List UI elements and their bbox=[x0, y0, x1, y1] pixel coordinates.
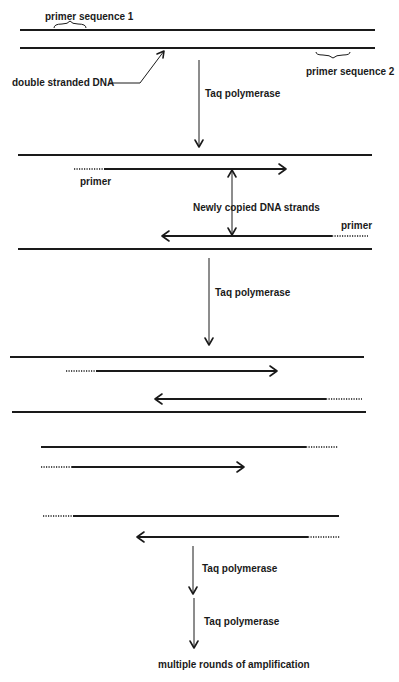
pointer-line bbox=[110, 51, 164, 83]
label-taq-4: Taq polymerase bbox=[204, 616, 280, 627]
label-taq-2: Taq polymerase bbox=[215, 287, 291, 298]
step-arrow-1: Taq polymerase bbox=[195, 60, 281, 147]
step-arrow-3: Taq polymerase bbox=[189, 546, 278, 594]
stage-third-round bbox=[41, 447, 340, 542]
brace-primer-1-icon bbox=[54, 21, 86, 28]
label-taq-3: Taq polymerase bbox=[202, 563, 278, 574]
step-arrow-4: Taq polymerase bbox=[190, 598, 280, 648]
pcr-diagram: primer sequence 1 primer sequence 2 doub… bbox=[0, 0, 399, 682]
label-primer-left: primer bbox=[80, 176, 111, 187]
label-primer-right: primer bbox=[341, 220, 372, 231]
label-double-stranded-dna: double stranded DNA bbox=[12, 77, 114, 88]
pointer-arrowhead-icon bbox=[157, 51, 164, 58]
label-newly-copied: Newly copied DNA strands bbox=[193, 202, 320, 213]
stage-first-copy: primer Newly copied DNA strands primer bbox=[18, 155, 372, 249]
brace-primer-2-icon bbox=[316, 52, 350, 58]
label-final: multiple rounds of amplification bbox=[158, 659, 310, 670]
label-primer-sequence-1: primer sequence 1 bbox=[45, 11, 134, 22]
step-arrow-2: Taq polymerase bbox=[205, 258, 291, 345]
label-primer-sequence-2: primer sequence 2 bbox=[306, 66, 395, 77]
label-taq-1: Taq polymerase bbox=[205, 88, 281, 99]
stage-second-round bbox=[10, 357, 366, 412]
stage-initial-dna: primer sequence 1 primer sequence 2 doub… bbox=[12, 11, 395, 88]
